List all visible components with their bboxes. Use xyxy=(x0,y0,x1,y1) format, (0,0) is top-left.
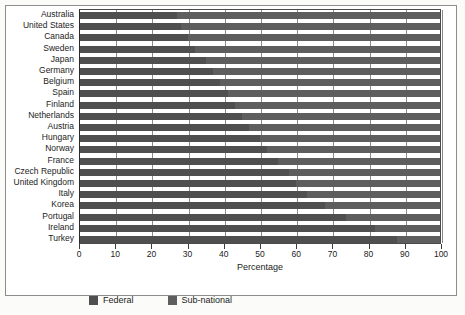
bar-segment-sub-national xyxy=(213,68,440,75)
bar-segment-federal xyxy=(80,202,325,209)
x-tick-label: 0 xyxy=(77,249,82,259)
legend-item-federal[interactable]: Federal xyxy=(89,295,134,305)
bar-segment-sub-national xyxy=(249,124,440,131)
bar-row xyxy=(80,236,440,243)
bar-segment-federal xyxy=(80,225,375,232)
category-label: Netherlands xyxy=(28,111,74,120)
bar-segment-sub-national xyxy=(278,158,440,165)
legend-label: Sub-national xyxy=(182,295,233,305)
category-label: Portugal xyxy=(42,212,74,221)
category-label: Turkey xyxy=(48,234,74,243)
bar-segment-federal xyxy=(80,146,267,153)
legend-item-sub[interactable]: Sub-national xyxy=(168,295,233,305)
category-label: France xyxy=(48,156,74,165)
bar-segment-federal xyxy=(80,124,249,131)
category-label: Germany xyxy=(39,66,74,75)
bar-row xyxy=(80,79,440,86)
bar-row xyxy=(80,169,440,176)
x-axis-title: Percentage xyxy=(79,262,441,272)
category-label: Austria xyxy=(48,122,74,131)
x-axis: 0102030405060708090100 xyxy=(79,244,441,260)
bar-segment-sub-national xyxy=(267,146,440,153)
x-tick-label: 100 xyxy=(434,249,448,259)
x-tick-label: 80 xyxy=(364,249,373,259)
bar-row xyxy=(80,146,440,153)
bar-row xyxy=(80,102,440,109)
bar-segment-sub-national xyxy=(206,57,440,64)
bar-row xyxy=(80,191,440,198)
category-label: Korea xyxy=(51,200,74,209)
bar-row xyxy=(80,113,440,120)
bar-segment-federal xyxy=(80,79,220,86)
category-label: Hungary xyxy=(42,133,74,142)
y-axis-category-labels: AustraliaUnited StatesCanadaSwedenJapanG… xyxy=(0,9,76,244)
category-label: Belgium xyxy=(43,77,74,86)
category-label: Finland xyxy=(46,100,74,109)
bar-segment-federal xyxy=(80,158,278,165)
category-label: Ireland xyxy=(48,223,74,232)
bar-segment-federal xyxy=(80,236,397,243)
bar-segment-sub-national xyxy=(260,135,440,142)
x-tick-label: 30 xyxy=(183,249,192,259)
bar-segment-sub-national xyxy=(181,23,440,30)
bar-segment-sub-national xyxy=(375,225,440,232)
bar-segment-federal xyxy=(80,68,213,75)
bar-row xyxy=(80,34,440,41)
category-label: Czech Republic xyxy=(14,167,74,176)
chart-figure: AustraliaUnited StatesCanadaSwedenJapanG… xyxy=(0,0,465,315)
x-tick-label: 50 xyxy=(255,249,264,259)
category-label: United Kingdom xyxy=(14,178,74,187)
bar-segment-federal xyxy=(80,180,296,187)
bar-segment-sub-national xyxy=(188,34,440,41)
bar-row xyxy=(80,158,440,165)
x-tick-label: 70 xyxy=(328,249,337,259)
bar-row xyxy=(80,12,440,19)
bar-segment-federal xyxy=(80,12,177,19)
legend-swatch-icon xyxy=(168,296,177,305)
bar-segment-sub-national xyxy=(325,202,440,209)
x-tick-label: 90 xyxy=(400,249,409,259)
bar-segment-sub-national xyxy=(177,12,440,19)
bar-segment-federal xyxy=(80,102,235,109)
bar-segment-federal xyxy=(80,90,228,97)
bar-segment-sub-national xyxy=(228,90,440,97)
bar-row xyxy=(80,124,440,131)
plot-area xyxy=(79,9,441,244)
category-label: Australia xyxy=(41,10,74,19)
bar-segment-sub-national xyxy=(296,180,440,187)
bar-row xyxy=(80,68,440,75)
bar-series-container xyxy=(80,10,440,243)
bar-row xyxy=(80,225,440,232)
bar-row xyxy=(80,90,440,97)
bar-segment-federal xyxy=(80,135,260,142)
bar-segment-federal xyxy=(80,214,346,221)
bar-segment-sub-national xyxy=(307,191,440,198)
bar-row xyxy=(80,23,440,30)
bar-segment-federal xyxy=(80,23,181,30)
bar-segment-sub-national xyxy=(235,102,440,109)
legend-label: Federal xyxy=(103,295,134,305)
bar-segment-federal xyxy=(80,113,242,120)
bar-segment-sub-national xyxy=(346,214,440,221)
bar-row xyxy=(80,135,440,142)
category-label: Spain xyxy=(52,88,74,97)
bar-segment-federal xyxy=(80,34,188,41)
x-tick-label: 10 xyxy=(110,249,119,259)
x-tick-label: 40 xyxy=(219,249,228,259)
category-label: Norway xyxy=(45,144,74,153)
bar-segment-sub-national xyxy=(397,236,440,243)
legend-swatch-icon xyxy=(89,296,98,305)
category-label: United States xyxy=(23,21,74,30)
category-label: Italy xyxy=(58,189,74,198)
category-label: Canada xyxy=(44,32,74,41)
x-tick-label: 20 xyxy=(147,249,156,259)
bar-segment-federal xyxy=(80,46,195,53)
chart-legend: FederalSub-national xyxy=(79,292,441,308)
bar-row xyxy=(80,57,440,64)
category-label: Japan xyxy=(51,55,74,64)
category-label: Sweden xyxy=(43,44,74,53)
bar-row xyxy=(80,214,440,221)
bar-segment-sub-national xyxy=(242,113,440,120)
bar-segment-sub-national xyxy=(220,79,440,86)
bar-segment-sub-national xyxy=(289,169,440,176)
